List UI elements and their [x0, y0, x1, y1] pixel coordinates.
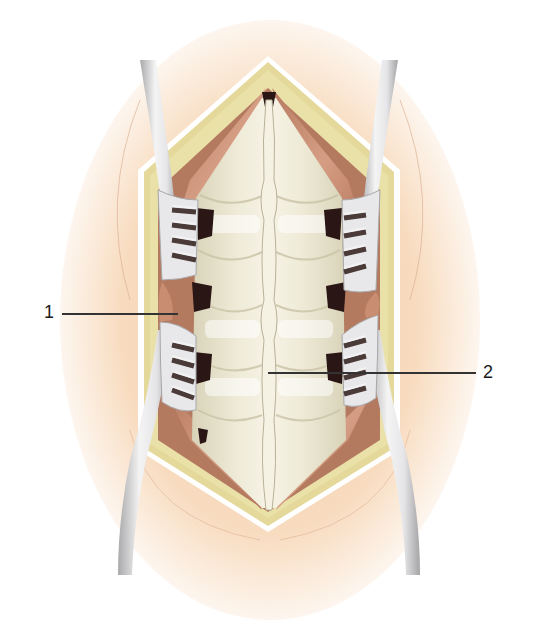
left-retractor-lower-blade [160, 322, 196, 411]
spine-exposure-drawing [0, 0, 538, 630]
callout-2-number: 2 [483, 363, 493, 381]
right-retractor-upper-blade [342, 190, 380, 292]
surgical-illustration: 1 2 [0, 0, 538, 630]
callout-2-leader-line [268, 372, 476, 374]
spinous-process [261, 100, 277, 510]
callout-1-leader-line [62, 313, 178, 315]
callout-1-number: 1 [44, 303, 54, 321]
left-retractor-upper-blade [158, 190, 198, 280]
